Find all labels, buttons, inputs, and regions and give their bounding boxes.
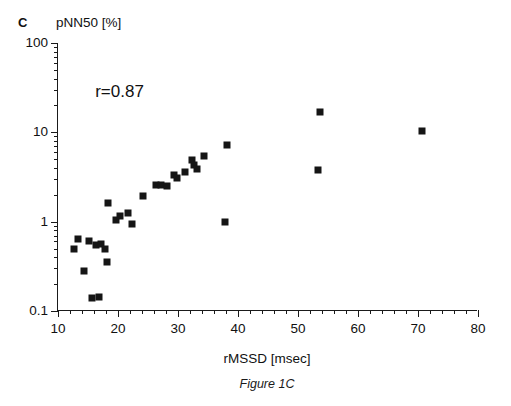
data-point-marker [139,192,146,199]
x-axis-minor-tick [466,310,467,314]
x-axis-minor-tick [202,310,203,314]
y-axis-minor-tick [54,57,58,58]
x-axis-minor-tick [142,310,143,314]
x-axis-tick-label: 10 [50,322,65,336]
x-axis-tick [298,310,299,317]
data-point-marker [124,210,131,217]
data-point-marker [201,153,208,160]
x-axis-minor-tick [310,310,311,314]
plot-area [58,43,477,310]
y-axis-tick-label: 10 [33,126,48,140]
x-axis-tick [58,310,59,317]
y-axis-minor-tick [54,268,58,269]
y-axis-minor-tick [54,179,58,180]
data-point-marker [181,168,188,175]
data-point-marker [224,141,231,148]
y-axis-minor-tick [54,159,58,160]
y-axis-minor-tick [54,226,58,227]
y-axis-minor-tick [54,152,58,153]
x-axis-tick-label: 30 [170,322,185,336]
y-axis-tick [51,311,58,312]
x-axis-minor-tick [286,310,287,314]
x-axis-minor-tick [190,310,191,314]
data-point-marker [70,245,77,252]
x-axis-tick [418,310,419,317]
x-axis-tick-label: 40 [230,322,245,336]
y-axis-minor-tick [54,90,58,91]
y-axis-minor-tick [54,168,58,169]
data-point-marker [117,213,124,220]
data-point-marker [75,235,82,242]
x-axis-tick-label: 50 [290,322,305,336]
y-axis-minor-tick [54,146,58,147]
y-axis-minor-tick [54,195,58,196]
x-axis-minor-tick [94,310,95,314]
x-axis-tick-label: 70 [410,322,425,336]
x-axis-minor-tick [334,310,335,314]
x-axis-minor-tick [274,310,275,314]
y-axis-tick [51,43,58,44]
data-point-marker [96,293,103,300]
y-axis-minor-tick [54,47,58,48]
data-point-marker [173,175,180,182]
x-axis-minor-tick [346,310,347,314]
y-axis-minor-tick [54,70,58,71]
x-axis-minor-tick [106,310,107,314]
y-axis-minor-tick [54,136,58,137]
x-axis-tick [178,310,179,317]
x-axis-tick [478,310,479,317]
x-axis-minor-tick [394,310,395,314]
y-axis-title: pNN50 [%] [56,16,121,30]
x-axis-tick [358,310,359,317]
data-point-marker [86,238,93,245]
x-axis-tick-label: 80 [470,322,485,336]
y-axis-tick [51,222,58,223]
x-axis-minor-tick [250,310,251,314]
data-point-marker [193,165,200,172]
x-axis-minor-tick [322,310,323,314]
data-point-marker [101,245,108,252]
data-point-marker [104,200,111,207]
data-point-marker [222,219,229,226]
x-axis-tick-label: 20 [110,322,125,336]
x-axis-tick [118,310,119,317]
x-axis-minor-tick [430,310,431,314]
y-axis-minor-tick [54,230,58,231]
figure-1c-scatter-plot: C pNN50 [%] r=0.87 0.1110100 10203040506… [0,0,511,406]
x-axis-minor-tick [130,310,131,314]
x-axis-tick-label: 60 [350,322,365,336]
data-point-marker [163,183,170,190]
x-axis-minor-tick [262,310,263,314]
x-axis-minor-tick [214,310,215,314]
y-axis-minor-tick [54,79,58,80]
y-axis-minor-tick [54,257,58,258]
x-axis-minor-tick [382,310,383,314]
figure-caption: Figure 1C [57,378,477,391]
y-axis-minor-tick [54,249,58,250]
x-axis-minor-tick [82,310,83,314]
y-axis-minor-tick [54,284,58,285]
y-axis-minor-tick [54,241,58,242]
x-axis-minor-tick [226,310,227,314]
x-axis-minor-tick [154,310,155,314]
data-point-marker [80,268,87,275]
data-point-marker [315,166,322,173]
y-axis-minor-tick [54,141,58,142]
x-axis-minor-tick [406,310,407,314]
y-axis-tick-label: 100 [25,36,48,50]
x-axis-minor-tick [454,310,455,314]
y-axis-tick-label: 1 [40,215,48,229]
y-axis-tick [51,132,58,133]
data-point-marker [128,220,135,227]
x-axis-tick [238,310,239,317]
data-point-marker [103,259,110,266]
plot-frame: r=0.87 0.1110100 1020304050607080 [57,43,477,311]
x-axis-title: rMSSD [msec] [57,352,477,366]
data-point-marker [88,294,95,301]
data-point-marker [418,128,425,135]
y-axis-minor-tick [54,236,58,237]
y-axis-minor-tick [54,52,58,53]
x-axis-minor-tick [370,310,371,314]
y-axis-minor-tick [54,105,58,106]
panel-letter: C [18,16,28,29]
